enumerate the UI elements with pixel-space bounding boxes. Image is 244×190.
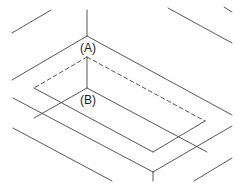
label-b: (B) [80, 93, 96, 107]
surface-line [168, 8, 232, 43]
outer-edge-left [12, 36, 87, 80]
hidden-outline [34, 57, 205, 121]
surface-line [13, 98, 153, 172]
inner-edge-right [87, 88, 207, 152]
isometric-recess-diagram: (A) (B) [0, 0, 244, 190]
label-a: (A) [80, 41, 96, 55]
surface-line [12, 10, 51, 33]
recess-edge [153, 121, 205, 152]
outer-edge-right [87, 36, 232, 115]
surface-line [13, 128, 112, 181]
surface-line [194, 158, 232, 181]
surface-line [224, 7, 232, 12]
